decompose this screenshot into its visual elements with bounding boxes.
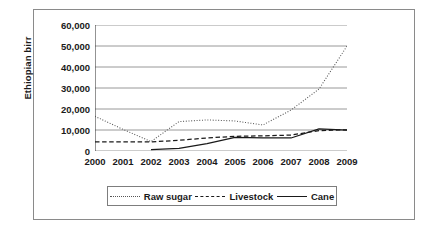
y-tick-label: 60,000 [36, 20, 90, 31]
y-tick-label: 0 [36, 146, 90, 157]
series-canvas [95, 25, 347, 151]
legend-item: Raw sugar [110, 191, 192, 202]
legend-label: Livestock [229, 191, 273, 202]
legend-line-sample [110, 196, 140, 197]
chart-figure: Ethiopian birr 010,00020,00030,00040,000… [0, 0, 434, 232]
y-tick-label: 50,000 [36, 41, 90, 52]
x-tick-label: 2000 [84, 156, 105, 167]
x-tick-label: 2003 [168, 156, 189, 167]
chart-legend: Raw sugarLivestockCane [107, 186, 337, 206]
x-tick-label: 2002 [140, 156, 161, 167]
legend-swatch [195, 192, 225, 200]
legend-item: Livestock [195, 191, 273, 202]
series-line [151, 129, 347, 150]
series-line [95, 46, 347, 142]
legend-swatch [110, 192, 140, 200]
y-tick-label: 20,000 [36, 104, 90, 115]
legend-swatch [277, 192, 307, 200]
legend-item: Cane [277, 191, 334, 202]
y-tick-label: 30,000 [36, 83, 90, 94]
legend-label: Raw sugar [144, 191, 192, 202]
x-tick-label: 2006 [252, 156, 273, 167]
x-tick-label: 2004 [196, 156, 217, 167]
plot-area [95, 25, 347, 151]
legend-label: Cane [311, 191, 334, 202]
x-tick-label: 2005 [224, 156, 245, 167]
y-tick-label: 40,000 [36, 62, 90, 73]
x-tick-label: 2009 [336, 156, 357, 167]
legend-line-sample [195, 196, 225, 197]
x-tick-label: 2007 [280, 156, 301, 167]
legend-line-sample [277, 196, 307, 197]
x-axis-tick-labels: 2000200120022003200420052006200720082009 [95, 156, 347, 172]
y-tick-label: 10,000 [36, 125, 90, 136]
x-tick-label: 2008 [308, 156, 329, 167]
x-tick-label: 2001 [112, 156, 133, 167]
y-axis-tick-labels: 010,00020,00030,00040,00050,00060,000 [36, 0, 90, 232]
